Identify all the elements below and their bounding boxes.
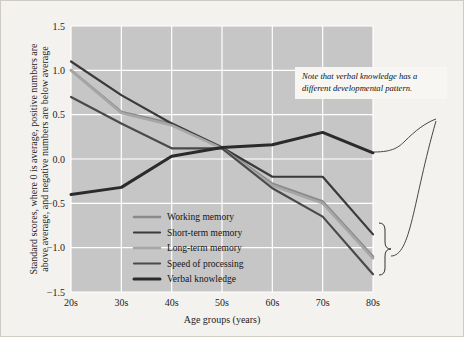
x-tick-label: 20s — [64, 297, 78, 308]
x-axis-ticks: 20s30s40s50s60s70s80s — [64, 297, 380, 308]
y-axis-title-group: Standard scores, where 0 is average, pos… — [28, 43, 50, 275]
annotation-line-2: different developmental pattern. — [302, 83, 412, 93]
brace-connector-curve — [391, 121, 436, 256]
y-tick-label: 1.0 — [53, 65, 66, 76]
annotation-callout: Note that verbal knowledge has a differe… — [295, 67, 447, 99]
y-tick-label: −1.5 — [47, 287, 65, 298]
legend-label: Working memory — [167, 212, 234, 222]
y-tick-label: 0.5 — [53, 109, 66, 120]
y-tick-label: 1.5 — [53, 21, 66, 32]
verbal-connector-curve — [374, 119, 436, 152]
legend-label: Speed of processing — [167, 259, 244, 269]
legend-label: Short-term memory — [167, 228, 242, 238]
decline-brace — [374, 119, 436, 275]
y-axis-title-line: Standard scores, where 0 is average, pos… — [28, 43, 39, 275]
legend-label: Long-term memory — [167, 243, 242, 253]
x-tick-label: 30s — [114, 297, 128, 308]
x-tick-label: 50s — [215, 297, 229, 308]
line-chart: 1.51.00.50.0−0.5−1.0−1.5 20s30s40s50s60s… — [1, 1, 464, 337]
y-axis-title-line: above average, and negative numbers are … — [39, 46, 50, 272]
x-tick-label: 70s — [316, 297, 330, 308]
annotation-line-1: Note that verbal knowledge has a — [301, 71, 417, 81]
x-tick-label: 40s — [165, 297, 179, 308]
brace-path — [379, 223, 391, 275]
x-axis-title: Age groups (years) — [184, 314, 261, 326]
x-tick-label: 60s — [265, 297, 279, 308]
y-tick-label: 0.0 — [53, 154, 66, 165]
figure-container: 1.51.00.50.0−0.5−1.0−1.5 20s30s40s50s60s… — [0, 0, 464, 337]
legend-label: Verbal knowledge — [167, 274, 236, 284]
x-tick-label: 80s — [366, 297, 380, 308]
